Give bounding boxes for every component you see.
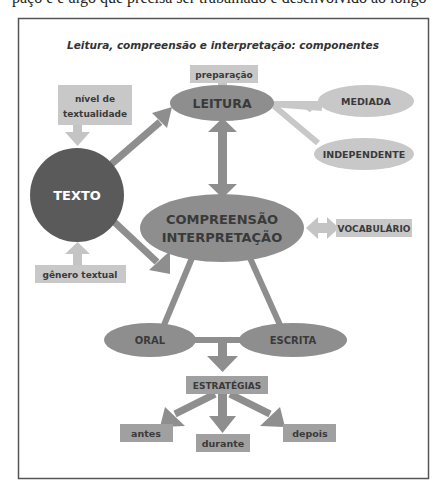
component-diagram: Leitura, compreensão e interpretação: co… bbox=[0, 0, 443, 490]
svg-text:antes: antes bbox=[131, 428, 161, 439]
node-leitura: LEITURA bbox=[170, 85, 274, 121]
svg-text:INDEPENDENTE: INDEPENDENTE bbox=[323, 149, 406, 160]
node-vocabulario: VOCABULÁRIO bbox=[336, 219, 412, 237]
svg-text:ESTRATÉGIAS: ESTRATÉGIAS bbox=[193, 380, 261, 391]
svg-text:durante: durante bbox=[202, 438, 244, 449]
svg-text:INTERPRETAÇÃO: INTERPRETAÇÃO bbox=[162, 230, 282, 245]
svg-text:preparação: preparação bbox=[195, 70, 253, 80]
node-escrita: ESCRITA bbox=[239, 323, 347, 357]
node-depois: depois bbox=[283, 424, 336, 442]
svg-text:COMPREENSÃO: COMPREENSÃO bbox=[166, 212, 278, 227]
node-nivel-de-textualidade: nível de textualidade bbox=[58, 85, 132, 125]
svg-text:MEDIADA: MEDIADA bbox=[341, 96, 392, 107]
node-texto: TEXTO bbox=[30, 148, 124, 242]
node-independente: INDEPENDENTE bbox=[314, 138, 414, 170]
diagram-title: Leitura, compreensão e interpretação: co… bbox=[67, 39, 379, 51]
svg-text:LEITURA: LEITURA bbox=[192, 96, 251, 111]
svg-text:textualidade: textualidade bbox=[63, 109, 127, 119]
svg-text:VOCABULÁRIO: VOCABULÁRIO bbox=[338, 223, 411, 234]
svg-text:depois: depois bbox=[292, 428, 328, 439]
svg-text:nível de: nível de bbox=[75, 94, 115, 104]
node-genero-textual: gênero textual bbox=[35, 265, 126, 283]
node-antes: antes bbox=[120, 424, 173, 442]
svg-text:gênero textual: gênero textual bbox=[43, 270, 118, 280]
svg-text:ORAL: ORAL bbox=[135, 335, 166, 346]
svg-text:ESCRITA: ESCRITA bbox=[270, 335, 317, 346]
node-estrategias: ESTRATÉGIAS bbox=[186, 376, 268, 394]
node-mediada: MEDIADA bbox=[318, 85, 414, 117]
svg-text:TEXTO: TEXTO bbox=[53, 188, 101, 203]
node-preparacao: preparação bbox=[190, 65, 258, 83]
node-compreensao-interpretacao: COMPREENSÃO INTERPRETAÇÃO bbox=[140, 194, 304, 262]
node-oral: ORAL bbox=[104, 323, 196, 357]
node-durante: durante bbox=[196, 434, 250, 452]
